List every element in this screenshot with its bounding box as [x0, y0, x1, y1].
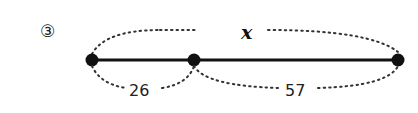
problem-number: ③ — [40, 21, 55, 41]
segment2-brace-right — [318, 66, 398, 88]
segment-diagram: ③ x 26 57 — [0, 0, 418, 113]
total-brace-right — [268, 30, 398, 52]
point-middle — [188, 54, 201, 67]
segment2-brace-left — [194, 66, 280, 88]
segment1-brace-right — [162, 66, 194, 88]
total-label: x — [240, 21, 253, 43]
segment2-label: 57 — [285, 81, 305, 100]
segment1-label: 26 — [129, 81, 149, 100]
segment1-brace-left — [92, 66, 126, 88]
point-right — [392, 54, 405, 67]
total-brace-left — [92, 30, 160, 54]
point-left — [86, 54, 99, 67]
